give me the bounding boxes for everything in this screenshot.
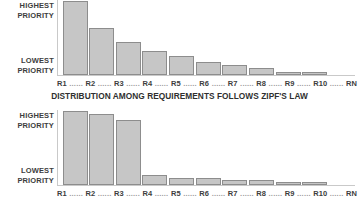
bar-rn-top — [329, 73, 354, 75]
plot-area-top — [57, 0, 355, 76]
bar-slot-r8-top — [248, 0, 274, 75]
bar-series-top — [58, 0, 355, 75]
chart-bottom: HIGHEST PRIORITY LOWEST PRIORITY R1.....… — [0, 110, 359, 210]
bar-slot-r6-top — [195, 0, 221, 75]
bar-slot-r10-top — [302, 0, 328, 75]
y-axis-highest-line1-bottom: HIGHEST — [17, 111, 54, 121]
y-axis-lowest-label-bottom: LOWEST PRIORITY — [17, 166, 54, 185]
bar-r4-top — [142, 51, 167, 75]
y-axis-lowest-line1-top: LOWEST — [17, 56, 54, 66]
figure-caption: DISTRIBUTION AMONG REQUIREMENTS FOLLOWS … — [0, 91, 359, 101]
bar-r10-bottom — [302, 182, 327, 185]
x-tick-r9-top: R9 — [285, 79, 295, 88]
x-tick-r4-top: R4 — [142, 79, 152, 88]
bar-slot-r9-top — [275, 0, 301, 75]
x-tick-rn-bottom: RN — [346, 189, 357, 198]
bar-r5-bottom — [169, 178, 194, 185]
bar-slot-r7-top — [222, 0, 248, 75]
x-axis-leader-top-6: ...... — [238, 79, 257, 88]
bar-r2-top — [89, 28, 114, 75]
x-axis-leader-bottom-7: ...... — [266, 189, 285, 198]
chart-top: HIGHEST PRIORITY LOWEST PRIORITY R1.....… — [0, 0, 359, 105]
bar-slot-rn-bottom — [328, 110, 354, 185]
x-axis-leader-bottom-4: ...... — [181, 189, 200, 198]
x-tick-r5-bottom: R5 — [171, 189, 181, 198]
bar-slot-r6-bottom — [195, 110, 221, 185]
bar-slot-r8-bottom — [248, 110, 274, 185]
plot-area-bottom — [57, 110, 355, 186]
x-axis-leader-bottom-6: ...... — [238, 189, 257, 198]
x-axis-top: R1......R2......R3......R4......R5......… — [57, 79, 357, 88]
bar-r4-bottom — [142, 175, 167, 185]
x-tick-r10-top: R10 — [313, 79, 327, 88]
x-axis-leader-bottom-8: ...... — [295, 189, 314, 198]
bar-slot-r7-bottom — [222, 110, 248, 185]
bar-r3-bottom — [116, 120, 141, 185]
x-tick-r8-top: R8 — [256, 79, 266, 88]
x-tick-r1-bottom: R1 — [57, 189, 67, 198]
bar-slot-rn-top — [328, 0, 354, 75]
x-tick-r6-bottom: R6 — [199, 189, 209, 198]
y-axis-highest-label-bottom: HIGHEST PRIORITY — [17, 111, 54, 130]
x-axis-leader-top-9: ...... — [327, 79, 346, 88]
y-axis-lowest-line2-bottom: PRIORITY — [17, 176, 54, 186]
bar-slot-r2-bottom — [89, 110, 115, 185]
x-axis-leader-top-7: ...... — [266, 79, 285, 88]
bar-r8-top — [249, 68, 274, 75]
y-axis-labels-bottom: HIGHEST PRIORITY LOWEST PRIORITY — [2, 110, 54, 186]
y-axis-labels-top: HIGHEST PRIORITY LOWEST PRIORITY — [2, 0, 54, 76]
x-axis-bottom: R1......R2......R3......R4......R5......… — [57, 189, 357, 198]
x-axis-leader-top-2: ...... — [124, 79, 143, 88]
bar-r9-top — [276, 72, 301, 75]
bar-r10-top — [302, 72, 327, 75]
x-tick-r1-top: R1 — [57, 79, 67, 88]
x-tick-r7-top: R7 — [228, 79, 238, 88]
x-tick-r2-top: R2 — [85, 79, 95, 88]
bar-slot-r1-bottom — [62, 110, 88, 185]
y-axis-highest-line1-top: HIGHEST — [17, 1, 54, 11]
bar-slot-r5-bottom — [169, 110, 195, 185]
bar-slot-r5-top — [169, 0, 195, 75]
bar-slot-r1-top — [62, 0, 88, 75]
x-axis-leader-bottom-0: ...... — [67, 189, 86, 198]
y-axis-highest-line2-bottom: PRIORITY — [17, 121, 54, 131]
x-axis-leader-top-5: ...... — [209, 79, 228, 88]
bar-r9-bottom — [276, 182, 301, 185]
x-tick-r6-top: R6 — [199, 79, 209, 88]
zipf-requirements-figure: HIGHEST PRIORITY LOWEST PRIORITY R1.....… — [0, 0, 359, 210]
x-axis-leader-top-1: ...... — [95, 79, 114, 88]
x-tick-r8-bottom: R8 — [256, 189, 266, 198]
y-axis-highest-line2-top: PRIORITY — [17, 11, 54, 21]
x-tick-r3-top: R3 — [114, 79, 124, 88]
x-axis-leader-top-4: ...... — [181, 79, 200, 88]
x-tick-r4-bottom: R4 — [142, 189, 152, 198]
bar-r3-top — [116, 42, 141, 75]
bar-r7-bottom — [222, 180, 247, 185]
x-tick-r10-bottom: R10 — [313, 189, 327, 198]
y-axis-lowest-line2-top: PRIORITY — [17, 66, 54, 76]
bar-r8-bottom — [249, 180, 274, 185]
bar-slot-r9-bottom — [275, 110, 301, 185]
x-tick-r9-bottom: R9 — [285, 189, 295, 198]
bar-slot-r10-bottom — [302, 110, 328, 185]
bar-r5-top — [169, 56, 194, 75]
bar-r6-bottom — [196, 178, 221, 185]
bar-r6-top — [196, 62, 221, 75]
x-axis-leader-bottom-2: ...... — [124, 189, 143, 198]
y-axis-highest-label-top: HIGHEST PRIORITY — [17, 1, 54, 20]
x-axis-leader-top-8: ...... — [295, 79, 314, 88]
x-axis-leader-bottom-1: ...... — [95, 189, 114, 198]
bar-series-bottom — [58, 110, 355, 185]
bar-rn-bottom — [329, 183, 354, 185]
x-tick-rn-top: RN — [346, 79, 357, 88]
bar-slot-r2-top — [89, 0, 115, 75]
bar-slot-r3-bottom — [115, 110, 141, 185]
bar-r7-top — [222, 65, 247, 75]
x-axis-leader-bottom-5: ...... — [209, 189, 228, 198]
bar-slot-r3-top — [115, 0, 141, 75]
bar-slot-r4-top — [142, 0, 168, 75]
bar-r1-bottom — [63, 111, 88, 185]
x-tick-r7-bottom: R7 — [228, 189, 238, 198]
x-tick-r5-top: R5 — [171, 79, 181, 88]
bar-slot-r4-bottom — [142, 110, 168, 185]
